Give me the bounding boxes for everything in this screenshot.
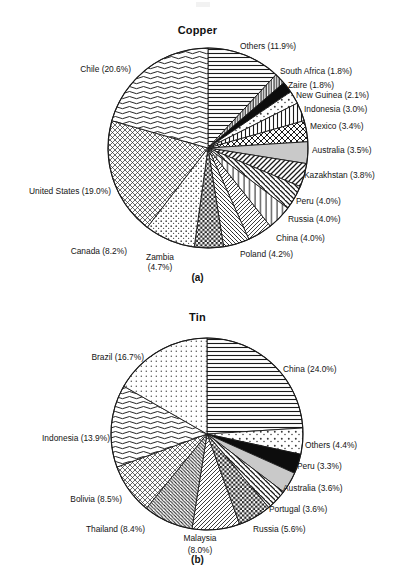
pie-slice-label: South Africa (1.8%) [280, 66, 352, 76]
pie-slice-label: Chile (20.6%) [0, 64, 131, 74]
panel-letter-a: (a) [0, 272, 395, 283]
pie-slice-label: Others (11.9%) [240, 41, 296, 51]
pie-slice-label: Australia (3.5%) [312, 145, 372, 155]
pie-slice-label: (4.7%) [100, 262, 220, 272]
pie-slice [207, 338, 303, 434]
pie-slice-label: Indonesia (13.9%) [0, 433, 110, 443]
figure-tin-pie: Tin China (24.0%)Others (4.4%)Peru (3.3%… [0, 290, 395, 572]
pie-slice-label: Portugal (3.6%) [269, 504, 327, 514]
pie-slice-label: Australia (3.6%) [283, 483, 343, 493]
pie-slice-label: Kazakhstan (3.8%) [304, 170, 375, 180]
pie-slice-label: Zaire (1.8%) [288, 80, 334, 90]
pie-slice-label: Mexico (3.4%) [310, 121, 364, 131]
pie-slice-label: Others (4.4%) [305, 440, 357, 450]
pie-slice-label: Canada (8.2%) [0, 246, 127, 256]
pie-slice-label: Thailand (8.4%) [0, 524, 145, 534]
pie-slice-label: Russia (4.0%) [288, 214, 341, 224]
pie-slice-label: China (24.0%) [283, 364, 337, 374]
panel-letter-b: (b) [0, 554, 395, 565]
pie-slice-label: United States (19.0%) [0, 186, 111, 196]
pie-slice-label: New Guinea (2.1%) [296, 90, 369, 100]
pie-slice-label: China (4.0%) [276, 233, 325, 243]
pie-slice-label: Peru (3.3%) [297, 461, 342, 471]
pie-slice-label: Brazil (16.7%) [0, 352, 144, 362]
pie-slice-label: Peru (4.0%) [296, 196, 341, 206]
pie-slice-label: Bolivia (8.5%) [0, 494, 122, 504]
figure-copper-pie: Copper Others (11.9%)South Africa (1.8%)… [0, 0, 395, 290]
pie-slice-label: Poland (4.2%) [240, 249, 293, 259]
pie-slice-label: Indonesia (3.0%) [304, 104, 367, 114]
pie-slice-label: Malaysia [140, 533, 260, 543]
pie-slice-label: Russia (5.6%) [253, 524, 306, 534]
